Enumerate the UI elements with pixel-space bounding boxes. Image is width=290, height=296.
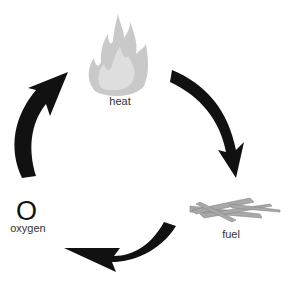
flame-icon — [89, 14, 148, 96]
oxygen-label: oxygen — [6, 222, 50, 234]
fuel-label: fuel — [216, 228, 246, 240]
heat-label: heat — [100, 95, 140, 107]
arrow-fuel-to-oxygen — [64, 222, 176, 272]
cycle-diagram — [0, 0, 290, 296]
arrow-heat-to-fuel — [170, 70, 244, 178]
oxygen-symbol: O — [16, 198, 37, 225]
sticks-icon — [190, 198, 280, 222]
arrow-oxygen-to-heat — [14, 72, 68, 178]
